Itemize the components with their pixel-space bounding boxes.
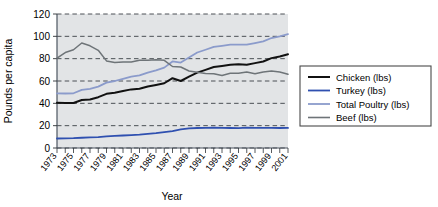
poultry-beef-consumption-line-chart: 020406080100120 197319751977197919811983… <box>0 0 438 207</box>
chart-legend: Chicken (lbs)Turkey (lbs)Total Poultry (… <box>300 66 431 126</box>
legend-label-total-poultry-lbs: Total Poultry (lbs) <box>336 99 409 110</box>
legend-label-turkey-lbs: Turkey (lbs) <box>336 85 386 96</box>
y-tick-label-80: 80 <box>39 53 51 64</box>
y-tick-label-120: 120 <box>33 9 50 20</box>
legend-label-chicken-lbs: Chicken (lbs) <box>336 72 391 83</box>
y-tick-label-20: 20 <box>39 120 51 131</box>
legend-label-beef-lbs: Beef (lbs) <box>336 112 377 123</box>
x-axis-title: Year <box>161 190 183 202</box>
y-tick-label-40: 40 <box>39 98 51 109</box>
y-tick-label-60: 60 <box>39 76 51 87</box>
y-axis-title: Pounds per capita <box>2 39 14 124</box>
y-tick-label-100: 100 <box>33 31 50 42</box>
chart-container: 020406080100120 197319751977197919811983… <box>0 0 438 207</box>
